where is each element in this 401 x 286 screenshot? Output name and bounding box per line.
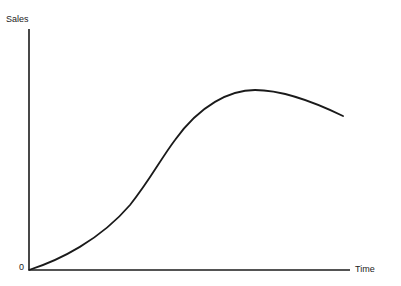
sales-curve — [29, 90, 343, 270]
chart-area — [0, 0, 401, 286]
